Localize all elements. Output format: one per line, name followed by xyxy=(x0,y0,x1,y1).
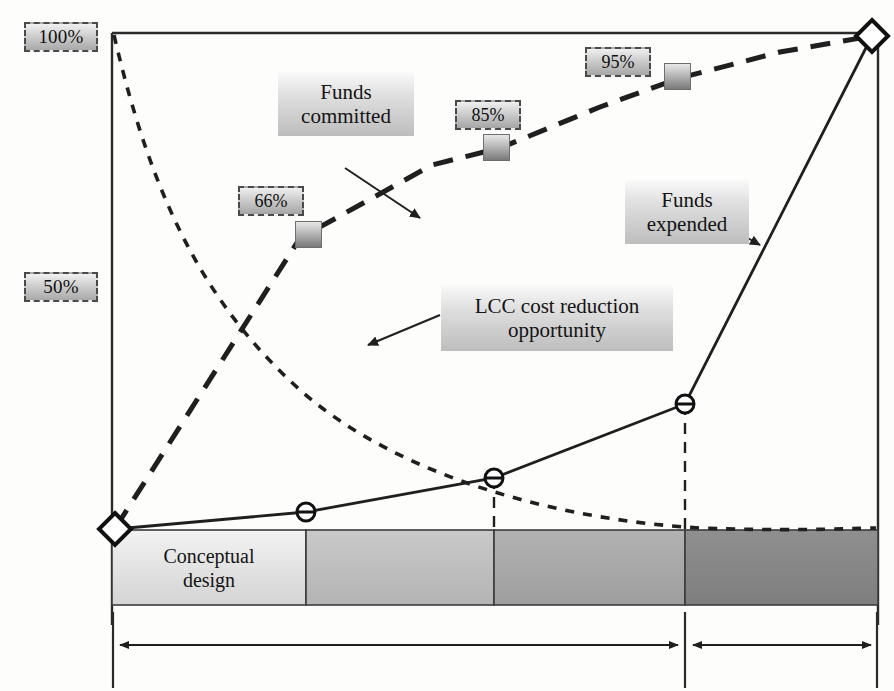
callout-line: Funds xyxy=(661,188,712,212)
callout-funds-expended: Funds expended xyxy=(625,180,749,244)
span-arrows xyxy=(113,612,877,688)
callout-funds-committed: Funds committed xyxy=(278,72,414,136)
value-chip-95: 95% xyxy=(585,47,651,77)
square-marker-85 xyxy=(483,134,510,161)
value-chip-66: 66% xyxy=(238,186,304,216)
diamond-marker-completion xyxy=(856,20,888,52)
callout-line: LCC cost reduction xyxy=(475,294,639,318)
y-axis-label-50: 50% xyxy=(24,272,98,302)
callout-line: opportunity xyxy=(508,318,606,342)
lcc-funds-chart: 100% 50% 66% 85% 95% Funds committed Fun… xyxy=(0,0,894,691)
y-axis-label-100: 100% xyxy=(24,22,98,52)
leader-lcc-opportunity xyxy=(368,315,440,345)
callout-line: committed xyxy=(301,104,391,128)
callout-line: Funds xyxy=(320,80,371,104)
circle-marker xyxy=(485,469,503,487)
phase-band-4 xyxy=(685,530,878,605)
circle-marker xyxy=(297,503,315,521)
phase-band-2 xyxy=(306,530,494,605)
square-marker-95 xyxy=(664,63,691,90)
circle-marker xyxy=(676,395,694,413)
callout-lcc-cost-reduction-opportunity: LCC cost reduction opportunity xyxy=(441,285,673,351)
phase-bands xyxy=(112,530,878,605)
phase-band-conceptual-design xyxy=(112,530,306,605)
value-chip-85: 85% xyxy=(455,100,521,130)
callout-line: expended xyxy=(647,212,727,236)
square-marker-66 xyxy=(295,221,322,248)
phase-band-3 xyxy=(494,530,685,605)
endpoint-markers xyxy=(99,20,888,545)
